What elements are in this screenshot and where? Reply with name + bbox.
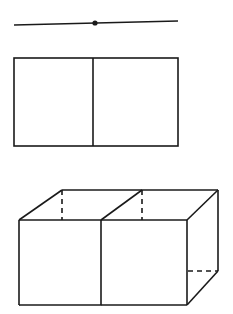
cuboid-group xyxy=(19,190,218,305)
cuboid-top-face xyxy=(19,190,218,220)
geometry-canvas xyxy=(0,0,233,314)
segment-group xyxy=(14,20,178,25)
rectangle-face xyxy=(14,58,178,146)
rectangle-group xyxy=(14,58,178,146)
segment-midpoint-dot xyxy=(92,20,97,25)
cuboid-front-face xyxy=(19,220,187,305)
geometry-diagram xyxy=(0,0,233,314)
